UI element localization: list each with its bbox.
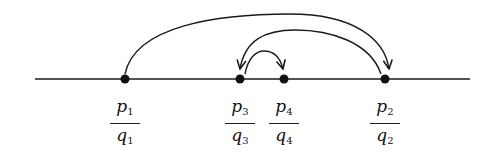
point-p3q3: [236, 75, 245, 84]
fraction-bar: [370, 123, 400, 124]
fraction-bar: [269, 123, 299, 124]
label-p2-q2: p2 q2: [365, 96, 405, 151]
arc-p1-to-p2: [125, 14, 389, 74]
fraction-bar: [225, 123, 255, 124]
denominator: q2: [365, 125, 405, 151]
denominator: q1: [105, 125, 145, 151]
point-p4q4: [280, 75, 289, 84]
point-p2q2: [381, 75, 390, 84]
fraction-bar: [110, 123, 140, 124]
point-p1q1: [121, 75, 130, 84]
denominator: q3: [220, 125, 260, 151]
numerator: p4: [264, 96, 304, 122]
numerator: p3: [220, 96, 260, 122]
label-p4-q4: p4 q4: [264, 96, 304, 151]
label-p3-q3: p3 q3: [220, 96, 260, 151]
numerator: p2: [365, 96, 405, 122]
denominator: q4: [264, 125, 304, 151]
arc-p3-to-p4: [245, 51, 283, 74]
numerator: p1: [105, 96, 145, 122]
label-p1-q1: p1 q1: [105, 96, 145, 151]
